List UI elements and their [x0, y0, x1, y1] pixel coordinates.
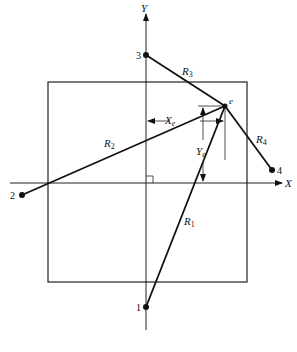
station-2-dot [19, 192, 25, 198]
xe-label: Xe [164, 114, 176, 128]
r2-label: R2 [103, 137, 115, 151]
r4-label: R4 [255, 133, 267, 147]
range-line-r3 [146, 55, 225, 106]
position-diagram: Y X 1 2 3 4 e R1 R2 R3 R4 Xe Ye [0, 0, 297, 352]
r1-label: R1 [183, 215, 195, 229]
station-4-label: 4 [277, 165, 282, 176]
station-4-dot [269, 167, 275, 173]
ye-label: Ye [196, 145, 206, 159]
station-3-label: 3 [136, 50, 141, 61]
station-1-dot [143, 304, 149, 310]
point-e-dot [223, 104, 228, 109]
y-axis-label: Y [141, 2, 149, 14]
station-1-label: 1 [136, 302, 141, 313]
x-axis-label: X [284, 177, 293, 189]
point-e-label: e [229, 96, 233, 106]
station-2-label: 2 [10, 190, 15, 201]
r3-label: R3 [181, 65, 193, 79]
coverage-square [48, 82, 247, 282]
right-angle-marker [146, 176, 153, 183]
station-3-dot [143, 52, 149, 58]
